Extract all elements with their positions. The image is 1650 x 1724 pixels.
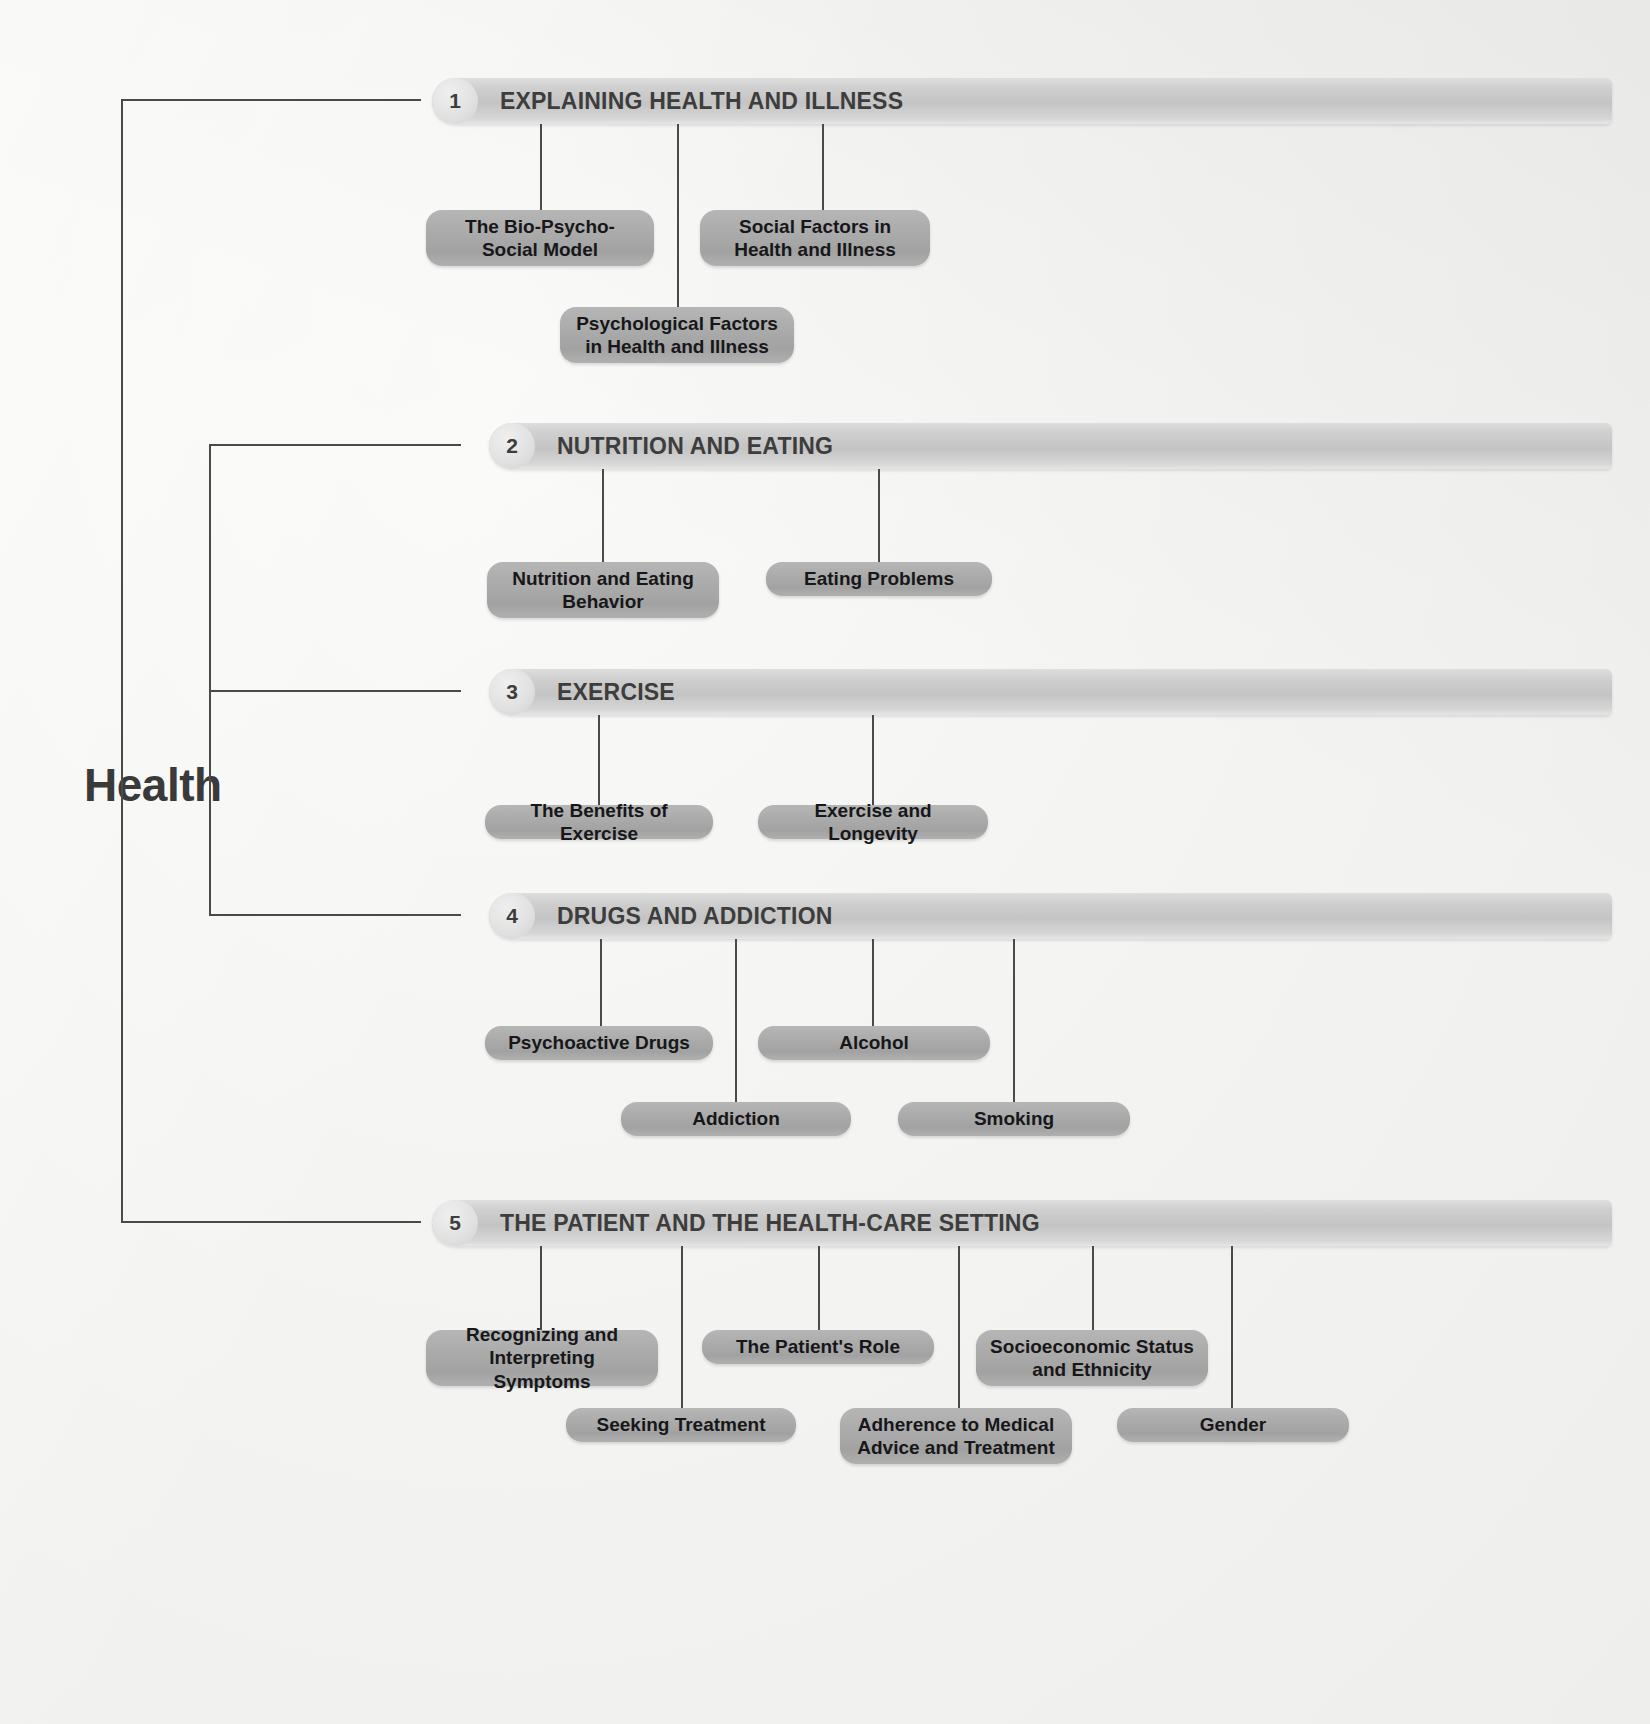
- topic-box[interactable]: Alcohol: [758, 1026, 990, 1060]
- spine-branch-section-5: [121, 1221, 421, 1223]
- connector-5-5: [958, 1246, 960, 1408]
- topic-box[interactable]: Adherence to Medical Advice and Treatmen…: [840, 1408, 1072, 1464]
- topic-box[interactable]: Eating Problems: [766, 562, 992, 596]
- spine-branch-section-2: [209, 444, 461, 446]
- concept-map-canvas: Health 1 EXPLAINING HEALTH AND ILLNESS T…: [0, 0, 1650, 1724]
- spine-outer-vertical: [121, 99, 123, 1223]
- connector-1-3: [677, 124, 679, 307]
- topic-box[interactable]: Gender: [1117, 1408, 1349, 1442]
- topic-box[interactable]: Exercise and Longevity: [758, 805, 988, 839]
- section-title-3: EXERCISE: [557, 679, 675, 706]
- root-node-health: Health: [84, 758, 222, 812]
- connector-5-4: [681, 1246, 683, 1408]
- section-number-1: 1: [432, 78, 478, 124]
- connector-4-3: [735, 939, 737, 1102]
- topic-box[interactable]: Addiction: [621, 1102, 851, 1136]
- section-bar-3[interactable]: 3 EXERCISE: [489, 669, 1612, 715]
- connector-3-1: [598, 715, 600, 805]
- section-number-3: 3: [489, 669, 535, 715]
- section-number-4: 4: [489, 893, 535, 939]
- section-bar-5[interactable]: 5 THE PATIENT AND THE HEALTH-CARE SETTIN…: [432, 1200, 1612, 1246]
- topic-box[interactable]: Psychoactive Drugs: [485, 1026, 713, 1060]
- section-bar-1[interactable]: 1 EXPLAINING HEALTH AND ILLNESS: [432, 78, 1612, 124]
- topic-box[interactable]: The Bio-Psycho-Social Model: [426, 210, 654, 266]
- section-title-1: EXPLAINING HEALTH AND ILLNESS: [500, 88, 903, 115]
- section-number-5: 5: [432, 1200, 478, 1246]
- connector-1-2: [822, 124, 824, 210]
- spine-branch-section-4: [209, 914, 461, 916]
- topic-box[interactable]: Nutrition and Eating Behavior: [487, 562, 719, 618]
- section-bar-4[interactable]: 4 DRUGS AND ADDICTION: [489, 893, 1612, 939]
- topic-box[interactable]: Seeking Treatment: [566, 1408, 796, 1442]
- connector-2-2: [878, 469, 880, 562]
- section-title-5: THE PATIENT AND THE HEALTH-CARE SETTING: [500, 1210, 1040, 1237]
- topic-box[interactable]: Social Factors in Health and Illness: [700, 210, 930, 266]
- topic-box[interactable]: Smoking: [898, 1102, 1130, 1136]
- spine-branch-section-1: [121, 99, 421, 101]
- section-number-2: 2: [489, 423, 535, 469]
- connector-4-4: [1013, 939, 1015, 1102]
- spine-branch-section-3: [209, 690, 461, 692]
- topic-box[interactable]: Recognizing and Interpreting Symptoms: [426, 1330, 658, 1386]
- section-bar-2[interactable]: 2 NUTRITION AND EATING: [489, 423, 1612, 469]
- topic-box[interactable]: The Benefits of Exercise: [485, 805, 713, 839]
- spine-inner-vertical: [209, 444, 211, 916]
- connector-3-2: [872, 715, 874, 805]
- section-title-4: DRUGS AND ADDICTION: [557, 903, 833, 930]
- connector-5-2: [818, 1246, 820, 1330]
- topic-box[interactable]: Socioeconomic Status and Ethnicity: [976, 1330, 1208, 1386]
- connector-1-1: [540, 124, 542, 210]
- connector-4-2: [872, 939, 874, 1026]
- topic-box[interactable]: Psychological Factors in Health and Illn…: [560, 307, 794, 363]
- connector-2-1: [602, 469, 604, 562]
- section-title-2: NUTRITION AND EATING: [557, 433, 833, 460]
- connector-5-1: [540, 1246, 542, 1330]
- topic-box[interactable]: The Patient's Role: [702, 1330, 934, 1364]
- connector-5-3: [1092, 1246, 1094, 1330]
- connector-5-6: [1231, 1246, 1233, 1408]
- connector-4-1: [600, 939, 602, 1026]
